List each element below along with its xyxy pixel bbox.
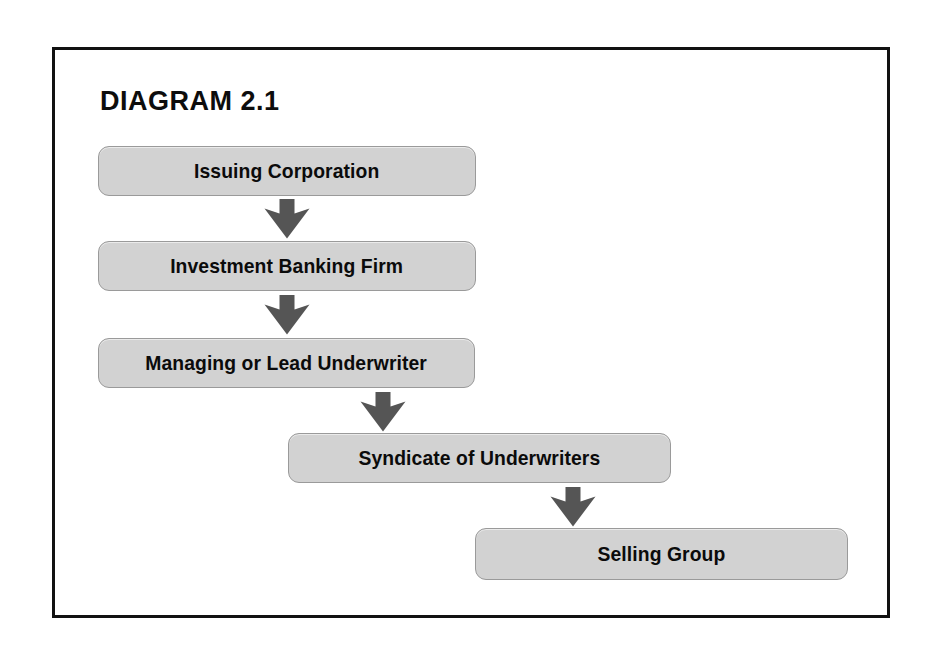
flow-node-label: Syndicate of Underwriters [359,446,601,470]
diagram-frame: DIAGRAM 2.1 Issuing Corporation Investme… [52,47,890,618]
flow-node-selling-group[interactable]: Selling Group [475,528,848,580]
flow-node-syndicate-of-underwriters[interactable]: Syndicate of Underwriters [288,433,671,483]
flow-arrow-down-2 [264,295,310,335]
flow-node-managing-or-lead-underwriter[interactable]: Managing or Lead Underwriter [98,338,475,388]
diagram-title: DIAGRAM 2.1 [100,86,280,117]
flow-node-investment-banking-firm[interactable]: Investment Banking Firm [98,241,476,291]
diagram-figure: DIAGRAM 2.1 Issuing Corporation Investme… [0,0,934,653]
flow-arrow-down-4 [550,487,596,527]
flow-arrow-down-3 [360,392,406,432]
flow-arrow-down-1 [264,199,310,239]
flow-node-label: Investment Banking Firm [171,254,404,278]
flow-node-label: Issuing Corporation [194,159,379,183]
flow-node-issuing-corporation[interactable]: Issuing Corporation [98,146,476,196]
flow-node-label: Managing or Lead Underwriter [146,351,428,375]
flow-node-label: Selling Group [598,542,726,566]
